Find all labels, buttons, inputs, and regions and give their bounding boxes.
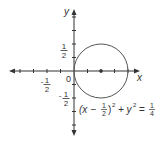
svg-text:1: 1 [64,90,69,99]
svg-text:+ y: + y [118,104,133,115]
svg-text:1: 1 [45,76,50,85]
svg-text:2: 2 [133,102,137,108]
circle-diagram: y x 0 1 2 - 1 2 - 1 2 (x − 1 2 ) 2 + y 2… [0,0,168,144]
svg-text:2: 2 [62,51,67,60]
origin-label: 0 [66,74,71,84]
svg-text:): ) [108,104,111,115]
svg-text:1: 1 [150,102,154,109]
y-axis-label: y [63,6,70,17]
svg-text:-: - [41,77,44,86]
svg-text:2: 2 [102,110,106,117]
circle-center-point [99,69,103,73]
tick-label-y-pos-half: 1 2 [61,42,68,60]
svg-text:2: 2 [112,102,116,108]
tick-label-x-neg-half: - 1 2 [41,76,51,94]
svg-text:(x −: (x − [79,104,96,115]
y-axis-down-arrow-icon [72,130,77,136]
svg-text:-: - [59,91,62,100]
svg-text:2: 2 [45,85,50,94]
svg-text:4: 4 [150,110,154,117]
svg-text:2: 2 [64,99,69,108]
x-axis-left-arrow-icon [9,69,15,74]
circle-equation: (x − 1 2 ) 2 + y 2 = 1 4 [79,102,155,117]
y-axis-up-arrow-icon [72,9,77,15]
svg-text:1: 1 [102,102,106,109]
tick-label-y-neg-half: - 1 2 [59,90,70,108]
x-axis-label: x [136,72,143,83]
svg-text:1: 1 [62,42,67,51]
svg-text:=: = [139,104,145,115]
